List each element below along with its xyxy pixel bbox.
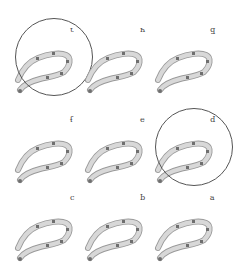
panel-label: ǝ bbox=[140, 116, 145, 124]
panel-f: ɟ bbox=[8, 112, 88, 197]
highlight-circle bbox=[155, 108, 233, 186]
panel-g: ƃ bbox=[148, 22, 228, 107]
panel-e: ǝ bbox=[78, 112, 158, 197]
worm-icon bbox=[78, 22, 158, 107]
panel-label: ɟ bbox=[70, 116, 73, 124]
panel-label: ɔ bbox=[70, 194, 74, 202]
panel-h: ч bbox=[78, 22, 158, 107]
worm-icon bbox=[148, 190, 228, 265]
panel-label: ƃ bbox=[210, 26, 215, 34]
worm-icon bbox=[8, 112, 88, 197]
panel-label: ч bbox=[140, 26, 145, 34]
panel-a: ɐ bbox=[148, 190, 228, 265]
panel-c: ɔ bbox=[8, 190, 88, 265]
worm-icon bbox=[148, 22, 228, 107]
worm-icon bbox=[78, 190, 158, 265]
worm-icon bbox=[8, 190, 88, 265]
worm-icon bbox=[78, 112, 158, 197]
panel-b: q bbox=[78, 190, 158, 265]
panel-label: q bbox=[140, 194, 145, 202]
panel-label: ɐ bbox=[210, 194, 215, 202]
